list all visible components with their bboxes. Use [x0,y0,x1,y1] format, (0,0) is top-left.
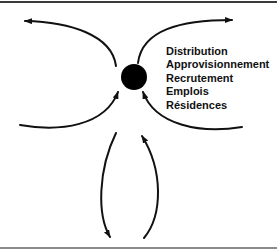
arrow-bottom-left [101,133,116,237]
label-list: Distribution Approvisionnement Recruteme… [166,45,269,112]
label-residences: Résidences [166,99,269,112]
arrow-top-left [25,21,116,66]
label-distribution: Distribution [166,45,269,58]
label-emplois: Emplois [166,85,269,98]
flow-diagram [0,0,277,250]
label-recrutement: Recrutement [166,72,269,85]
label-approvisionnement: Approvisionnement [166,58,269,71]
center-node [121,64,147,90]
bottom-border [0,247,277,249]
arrow-lower-left [20,92,118,128]
arrow-bottom-right [142,136,158,238]
